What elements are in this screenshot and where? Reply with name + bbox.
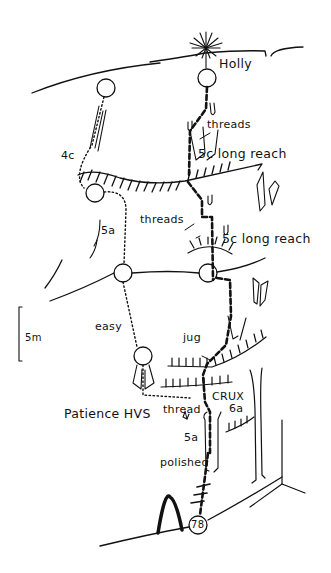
label-jug: jug	[183, 332, 201, 343]
belay-top	[198, 69, 216, 87]
ground-line	[100, 477, 282, 546]
label-4c: 4c	[61, 150, 75, 161]
label-5a-low: 5a	[184, 432, 198, 443]
route-number: 78	[191, 520, 204, 530]
label-5a-left: 5a	[101, 225, 115, 236]
label-holly: Holly	[219, 58, 252, 71]
belay-middle-right	[199, 264, 217, 282]
overhang-upper	[78, 162, 262, 192]
overhang-crux	[161, 375, 232, 387]
start-ticks	[191, 484, 210, 503]
label-route-name: Patience HVS	[64, 408, 151, 421]
label-scale-5m: 5m	[25, 333, 42, 343]
label-crux: CRUX	[212, 391, 244, 402]
label-easy: easy	[95, 321, 122, 332]
label-6a: 6a	[229, 403, 243, 414]
topo-diagram	[0, 0, 331, 573]
label-5c-long-reach-upper: 5c long reach	[198, 148, 287, 161]
belay-lower-left	[134, 347, 152, 365]
overhang-right-low	[226, 416, 254, 432]
label-threads-mid: threads	[140, 214, 184, 225]
holly-tree-icon	[190, 32, 222, 68]
label-polished: polished	[160, 457, 209, 468]
cracks-right	[250, 368, 305, 507]
belay-left-mid	[86, 184, 104, 202]
belay-middle-left	[114, 264, 132, 282]
label-threads-top: threads	[207, 119, 251, 130]
boulder-icon	[158, 496, 182, 533]
label-5c-long-reach-lower: 5c long reach	[222, 233, 311, 246]
middle-ledge	[45, 258, 265, 301]
label-thread: thread	[163, 404, 201, 415]
belay-left-upper	[97, 79, 115, 97]
crag-top-edge	[32, 47, 303, 93]
